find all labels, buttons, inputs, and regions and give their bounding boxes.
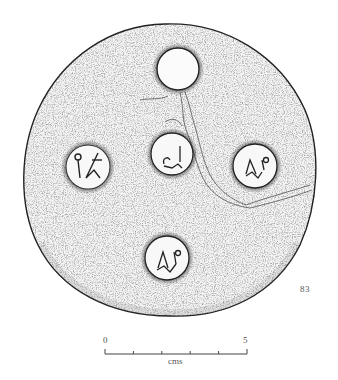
scale-unit-label: cms [168,356,183,366]
stamp-right [228,139,282,193]
scale-end-label: 5 [243,335,248,345]
disc-illustration [0,0,338,380]
scale-start-label: 0 [103,335,108,345]
scale-bar [105,349,247,354]
stamp-center [146,128,198,180]
figure-number: 83 [300,284,310,294]
drawing-figure: 83 0 5 cms [0,0,338,380]
stamp-left [61,140,115,194]
stamp-top [152,43,204,95]
stamp-bottom [140,231,194,285]
